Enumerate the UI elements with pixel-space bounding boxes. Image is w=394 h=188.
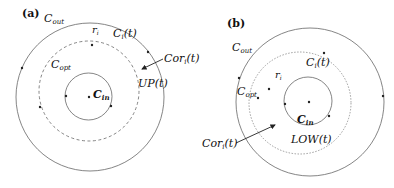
panel-a: (a) Cout ri Ci(t) Copt Cin Cori(t) UP(t) [16, 7, 200, 171]
label-c-in-b: Cin [297, 113, 314, 127]
point-b [328, 115, 330, 117]
point-a [65, 95, 67, 97]
center-point-a [88, 96, 90, 98]
label-c-i-a: Ci(t) [113, 27, 137, 41]
panel-b: (b) Cout ri Ci(t) Copt Cin Cori(t) LOW(t… [202, 17, 384, 176]
label-r-i-a: ri [92, 24, 99, 36]
panel-tag-a: (a) [22, 7, 40, 20]
point-b [382, 95, 384, 97]
point-b [238, 77, 240, 79]
arrow-a [142, 59, 163, 69]
point-a [21, 67, 23, 69]
label-c-i-b: Ci(t) [306, 56, 330, 70]
label-c-in-a: Cin [93, 88, 110, 102]
diagram-canvas: (a) Cout ri Ci(t) Copt Cin Cori(t) UP(t) [0, 0, 394, 188]
label-cor-b: Cori(t) [202, 137, 238, 151]
point-b [257, 97, 259, 99]
label-c-opt-a: Copt [51, 58, 71, 72]
optimal-circle-a [39, 41, 139, 141]
point-a [39, 106, 41, 108]
point-b [284, 103, 286, 105]
point-a [91, 44, 93, 46]
panel-tag-b: (b) [227, 17, 245, 30]
label-c-out-a: Cout [44, 12, 64, 26]
point-a [147, 51, 149, 53]
label-c-opt-b: Copt [237, 85, 257, 99]
label-cor-a: Cori(t) [164, 52, 200, 66]
label-r-i-b: ri [275, 69, 282, 81]
point-b [323, 52, 325, 54]
label-c-out-b: Cout [232, 41, 252, 55]
center-point-b [308, 101, 310, 103]
label-region-b: LOW(t) [290, 133, 332, 146]
point-a [110, 105, 112, 107]
point-b [268, 88, 270, 90]
label-region-a: UP(t) [138, 77, 168, 90]
arrow-b [236, 125, 275, 143]
